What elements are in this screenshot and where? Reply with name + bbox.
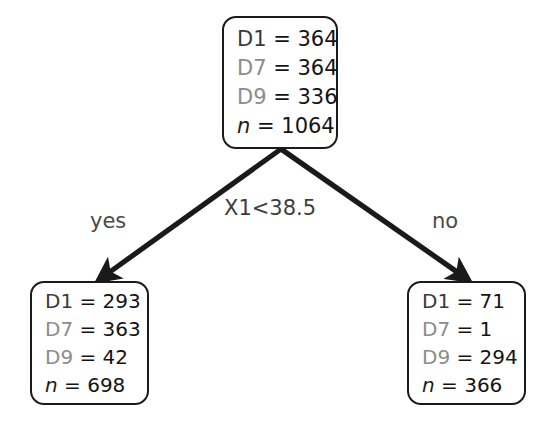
row-sep: = xyxy=(73,317,102,341)
row-label: D9 xyxy=(45,345,73,369)
row-sep: = xyxy=(450,317,479,341)
row-label: D1 xyxy=(45,289,73,313)
row-sep: = xyxy=(450,345,479,369)
row-sep: = xyxy=(73,345,102,369)
row-value: 366 xyxy=(464,373,502,397)
decision-tree-diagram: D1 = 364 D7 = 364 D9 = 336 n = 1064 D1 =… xyxy=(0,0,552,431)
row-label: D7 xyxy=(237,56,267,80)
row-label: n xyxy=(422,373,435,397)
row-label: D9 xyxy=(237,85,267,109)
node-row: D1 = 293 xyxy=(32,287,147,315)
row-value: 363 xyxy=(103,317,141,341)
edge-label-yes: yes xyxy=(90,209,126,233)
row-value: 71 xyxy=(480,289,505,313)
row-label: D7 xyxy=(45,317,73,341)
node-row: D7 = 1 xyxy=(409,315,524,343)
row-sep: = xyxy=(267,85,298,109)
node-row: D9 = 294 xyxy=(409,343,524,371)
row-sep: = xyxy=(450,289,479,313)
split-condition-label: X1<38.5 xyxy=(224,196,316,220)
node-row: n = 366 xyxy=(409,371,524,399)
row-sep: = xyxy=(435,373,464,397)
row-value: 293 xyxy=(103,289,141,313)
node-row: n = 698 xyxy=(32,371,147,399)
node-row: n = 1064 xyxy=(224,112,336,141)
node-row: D1 = 71 xyxy=(409,287,524,315)
row-sep: = xyxy=(267,27,298,51)
row-value: 698 xyxy=(87,373,125,397)
row-value: 1 xyxy=(480,317,493,341)
row-sep: = xyxy=(250,114,281,138)
edge-label-no: no xyxy=(432,209,458,233)
row-value: 336 xyxy=(297,85,337,109)
node-row: D9 = 336 xyxy=(224,83,336,112)
node-row: D7 = 363 xyxy=(32,315,147,343)
row-sep: = xyxy=(73,289,102,313)
row-value: 364 xyxy=(297,56,337,80)
row-sep: = xyxy=(267,56,298,80)
tree-node-left-child[interactable]: D1 = 293 D7 = 363 D9 = 42 n = 698 xyxy=(30,281,149,405)
row-label: D1 xyxy=(237,27,267,51)
row-label: D9 xyxy=(422,345,450,369)
row-value: 294 xyxy=(480,345,518,369)
node-row: D7 = 364 xyxy=(224,54,336,83)
row-label: n xyxy=(237,114,250,138)
node-row: D1 = 364 xyxy=(224,25,336,54)
row-label: n xyxy=(45,373,58,397)
row-sep: = xyxy=(58,373,87,397)
tree-node-right-child[interactable]: D1 = 71 D7 = 1 D9 = 294 n = 366 xyxy=(407,281,526,405)
row-value: 1064 xyxy=(281,114,334,138)
row-label: D7 xyxy=(422,317,450,341)
row-value: 364 xyxy=(297,27,337,51)
node-row: D9 = 42 xyxy=(32,343,147,371)
tree-node-root[interactable]: D1 = 364 D7 = 364 D9 = 336 n = 1064 xyxy=(222,16,338,149)
row-value: 42 xyxy=(103,345,128,369)
row-label: D1 xyxy=(422,289,450,313)
